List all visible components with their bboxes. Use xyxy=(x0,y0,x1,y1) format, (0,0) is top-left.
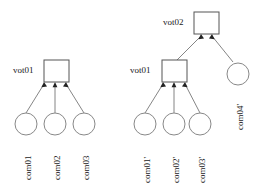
arrowhead-com03p-icon xyxy=(182,82,188,87)
left-tree-edges xyxy=(26,84,84,113)
arrowhead-com04-icon xyxy=(209,34,215,39)
label-com03p: com03' xyxy=(198,157,207,183)
edge-com04-to-vot02 xyxy=(212,36,233,62)
node-right-vot01-box[interactable] xyxy=(162,60,187,82)
right-tree-lower-edges xyxy=(145,84,200,113)
edge-com01-to-vot01 xyxy=(26,84,44,113)
label-com03: com03 xyxy=(82,156,91,181)
arrowhead-com02p-icon xyxy=(172,82,177,87)
label-com02p: com02' xyxy=(172,157,181,183)
node-left-vot01-box[interactable] xyxy=(44,60,69,82)
label-com02: com02 xyxy=(53,156,62,181)
arrowhead-com03-icon xyxy=(63,82,69,87)
label-com01: com01 xyxy=(24,156,33,181)
label-vot02: vot02 xyxy=(163,18,184,27)
node-com01p-circle[interactable] xyxy=(134,113,156,135)
edge-com03p-to-vot01 xyxy=(185,84,200,113)
label-com04p: com04' xyxy=(236,104,245,130)
right-tree-lower-arrowheads xyxy=(160,82,187,87)
arrowhead-vot01-icon xyxy=(198,34,204,39)
diagram-graphics xyxy=(0,0,255,187)
label-com01p: com01' xyxy=(143,157,152,183)
node-com03-circle[interactable] xyxy=(73,113,95,135)
label-right-vot01: vot01 xyxy=(130,66,151,75)
node-com02-circle[interactable] xyxy=(44,113,66,135)
node-com04-circle[interactable] xyxy=(227,63,249,85)
arrowhead-com02-icon xyxy=(53,82,58,87)
node-vot02-box[interactable] xyxy=(194,12,219,34)
right-tree-upper-arrowheads xyxy=(198,34,214,39)
node-com03p-circle[interactable] xyxy=(189,113,211,135)
edge-com01p-to-vot01 xyxy=(145,84,163,113)
node-com02p-circle[interactable] xyxy=(163,113,185,135)
diagram-canvas: vot01 com01 com02 com03 vot02 vot01 com0… xyxy=(0,0,255,187)
left-tree-arrowheads xyxy=(41,82,68,87)
node-com01-circle[interactable] xyxy=(15,113,37,135)
arrowhead-com01-icon xyxy=(41,82,47,87)
label-left-vot01: vot01 xyxy=(13,66,34,75)
edge-com03-to-vot01 xyxy=(66,84,84,113)
arrowhead-com01p-icon xyxy=(160,82,166,87)
